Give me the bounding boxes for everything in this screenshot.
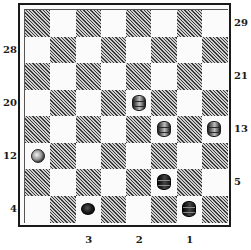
board-square-r4-c6[interactable]	[177, 116, 203, 143]
board-square-r2-c0[interactable]	[25, 63, 51, 90]
board-square-r0-c2[interactable]	[76, 10, 102, 37]
light-king-piece[interactable]	[157, 121, 171, 137]
board-square-r6-c0[interactable]	[25, 169, 51, 196]
board-square-r7-c7[interactable]	[202, 196, 228, 223]
board-square-r3-c0[interactable]	[25, 90, 51, 117]
board-square-r2-c1[interactable]	[50, 63, 76, 90]
square-number-label: 29	[234, 18, 248, 28]
light-king-piece[interactable]	[207, 121, 221, 137]
square-number-label: 21	[234, 71, 248, 81]
board-square-r3-c5[interactable]	[151, 90, 177, 117]
board-square-r5-c3[interactable]	[101, 143, 127, 170]
board-square-r7-c3[interactable]	[101, 196, 127, 223]
board-square-r7-c0[interactable]	[25, 196, 51, 223]
board-square-r3-c2[interactable]	[76, 90, 102, 117]
board-square-r6-c3[interactable]	[101, 169, 127, 196]
column-number-label: 3	[85, 235, 92, 245]
board-square-r0-c7[interactable]	[202, 10, 228, 37]
board-square-r6-c2[interactable]	[76, 169, 102, 196]
square-number-label: 4	[10, 204, 17, 214]
board-square-r1-c5[interactable]	[151, 37, 177, 64]
board-square-r1-c6[interactable]	[177, 37, 203, 64]
board-square-r2-c5[interactable]	[151, 63, 177, 90]
board-square-r0-c0[interactable]	[25, 10, 51, 37]
column-number-label: 1	[186, 235, 193, 245]
board-square-r4-c2[interactable]	[76, 116, 102, 143]
board-square-r1-c2[interactable]	[76, 37, 102, 64]
dark-king-piece[interactable]	[157, 174, 171, 190]
board-square-r3-c6[interactable]	[177, 90, 203, 117]
dark-checker-piece[interactable]	[81, 203, 95, 215]
board-square-r4-c3[interactable]	[101, 116, 127, 143]
square-number-label: 12	[3, 151, 17, 161]
board-square-r6-c7[interactable]	[202, 169, 228, 196]
square-number-label: 20	[3, 98, 17, 108]
board-square-r0-c6[interactable]	[177, 10, 203, 37]
board-square-r2-c6[interactable]	[177, 63, 203, 90]
board-square-r0-c4[interactable]	[126, 10, 152, 37]
column-number-label: 2	[136, 235, 143, 245]
board-square-r5-c1[interactable]	[50, 143, 76, 170]
board-square-r3-c7[interactable]	[202, 90, 228, 117]
board-square-r5-c4[interactable]	[126, 143, 152, 170]
board-square-r6-c4[interactable]	[126, 169, 152, 196]
board-square-r6-c6[interactable]	[177, 169, 203, 196]
square-number-label: 13	[234, 124, 248, 134]
board-square-r5-c7[interactable]	[202, 143, 228, 170]
board-square-r5-c6[interactable]	[177, 143, 203, 170]
board-square-r2-c4[interactable]	[126, 63, 152, 90]
light-king-piece[interactable]	[132, 95, 146, 111]
board-square-r3-c3[interactable]	[101, 90, 127, 117]
board-square-r0-c1[interactable]	[50, 10, 76, 37]
board-square-r0-c3[interactable]	[101, 10, 127, 37]
checkers-board[interactable]	[24, 9, 228, 223]
board-square-r7-c1[interactable]	[50, 196, 76, 223]
square-number-label: 28	[3, 45, 17, 55]
board-square-r4-c0[interactable]	[25, 116, 51, 143]
square-number-label: 5	[234, 177, 241, 187]
board-square-r6-c1[interactable]	[50, 169, 76, 196]
board-square-r4-c1[interactable]	[50, 116, 76, 143]
board-square-r2-c3[interactable]	[101, 63, 127, 90]
light-checker-piece[interactable]	[31, 149, 45, 163]
board-square-r0-c5[interactable]	[151, 10, 177, 37]
board-square-r7-c4[interactable]	[126, 196, 152, 223]
board-square-r5-c2[interactable]	[76, 143, 102, 170]
board-square-r7-c5[interactable]	[151, 196, 177, 223]
board-square-r1-c1[interactable]	[50, 37, 76, 64]
board-square-r4-c4[interactable]	[126, 116, 152, 143]
board-square-r1-c0[interactable]	[25, 37, 51, 64]
dark-king-piece[interactable]	[182, 201, 196, 217]
board-square-r1-c7[interactable]	[202, 37, 228, 64]
board-square-r1-c4[interactable]	[126, 37, 152, 64]
board-square-r2-c7[interactable]	[202, 63, 228, 90]
board-square-r3-c1[interactable]	[50, 90, 76, 117]
board-square-r5-c5[interactable]	[151, 143, 177, 170]
board-square-r1-c3[interactable]	[101, 37, 127, 64]
board-square-r2-c2[interactable]	[76, 63, 102, 90]
